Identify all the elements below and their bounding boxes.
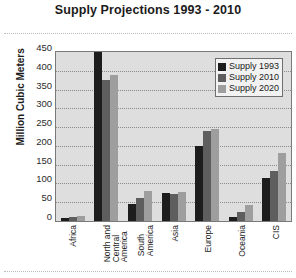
bar[interactable]	[61, 218, 69, 221]
legend-label: Supply 1993	[229, 62, 279, 71]
legend-item[interactable]: Supply 1993	[218, 61, 279, 72]
bar[interactable]	[245, 205, 253, 221]
bar[interactable]	[229, 217, 237, 222]
chart-page: Supply Projections 1993 - 2010 Million C…	[0, 0, 296, 278]
y-tick-label: 350	[26, 80, 52, 89]
y-tick-label: 250	[26, 118, 52, 127]
x-axis-tick-labels: AfricaNorth and Central AmericaSouth Ame…	[55, 223, 292, 277]
y-tick-label: 400	[26, 61, 52, 70]
bar[interactable]	[162, 193, 170, 221]
y-tick-label: 150	[26, 155, 52, 164]
x-label-cell: Europe	[190, 223, 224, 277]
top-divider-rule	[4, 33, 292, 34]
bar[interactable]	[195, 146, 203, 221]
bar-group	[123, 52, 157, 221]
bar[interactable]	[77, 216, 85, 221]
legend-swatch-icon	[218, 85, 226, 93]
bar[interactable]	[237, 212, 245, 221]
legend-item[interactable]: Supply 2020	[218, 83, 279, 94]
bar[interactable]	[110, 75, 118, 221]
legend-swatch-icon	[218, 74, 226, 82]
x-tick-label: Asia	[171, 225, 180, 242]
y-axis-tick-labels: 450400350300250200150100500	[26, 46, 52, 222]
bar-group	[56, 52, 90, 221]
bar[interactable]	[211, 129, 219, 221]
bar-group	[157, 52, 191, 221]
bar[interactable]	[270, 171, 278, 221]
x-label-cell: North and Central America	[89, 223, 123, 277]
x-tick-label: South America	[137, 225, 154, 256]
y-tick-label: 300	[26, 99, 52, 108]
y-axis-title: Million Cubic Meters	[15, 50, 26, 146]
bar[interactable]	[69, 217, 77, 221]
legend-swatch-icon	[218, 63, 226, 71]
x-tick-label: CIS	[272, 225, 281, 239]
bar[interactable]	[94, 52, 102, 221]
bar[interactable]	[128, 204, 136, 221]
bar[interactable]	[136, 198, 144, 221]
y-tick-label: 200	[26, 136, 52, 145]
x-label-cell: CIS	[258, 223, 292, 277]
bar[interactable]	[178, 192, 186, 221]
y-tick-label: 50	[26, 193, 52, 202]
x-label-cell: Oceania	[224, 223, 258, 277]
legend-item[interactable]: Supply 2010	[218, 72, 279, 83]
bar[interactable]	[262, 178, 270, 221]
y-tick-label: 0	[26, 212, 52, 221]
bar[interactable]	[102, 80, 110, 221]
legend-label: Supply 2020	[229, 84, 279, 93]
bar[interactable]	[144, 191, 152, 221]
x-label-cell: Africa	[55, 223, 89, 277]
legend-label: Supply 2010	[229, 73, 279, 82]
x-tick-label: Europe	[204, 225, 213, 252]
x-label-cell: Asia	[157, 223, 191, 277]
bar[interactable]	[278, 153, 286, 221]
x-tick-label: Oceania	[238, 225, 247, 257]
x-tick-label: Africa	[69, 225, 78, 247]
chart-legend: Supply 1993Supply 2010Supply 2020	[215, 58, 283, 97]
chart-title: Supply Projections 1993 - 2010	[0, 3, 296, 17]
y-tick-label: 100	[26, 174, 52, 183]
bar[interactable]	[170, 194, 178, 221]
bar[interactable]	[203, 131, 211, 221]
x-label-cell: South America	[123, 223, 157, 277]
y-tick-label: 450	[26, 43, 52, 52]
bar-group	[90, 52, 124, 221]
